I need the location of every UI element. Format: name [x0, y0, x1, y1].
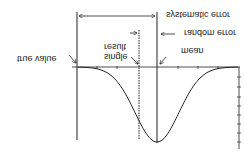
- true-value-label: true value: [17, 54, 57, 64]
- gaussian-curve: [78, 67, 238, 142]
- error-diagram: systematic error random error mean singl…: [0, 0, 244, 158]
- single-result-label-1: single: [104, 52, 128, 62]
- single-result-label-2: result: [104, 42, 127, 52]
- true-value-arrow: [69, 55, 76, 63]
- single-result-arrow: [131, 57, 138, 64]
- systematic-error-label: systematic error: [166, 10, 230, 20]
- random-error-label: random error: [184, 28, 236, 38]
- mean-label: mean: [181, 46, 204, 56]
- mean-arrow: [160, 57, 166, 64]
